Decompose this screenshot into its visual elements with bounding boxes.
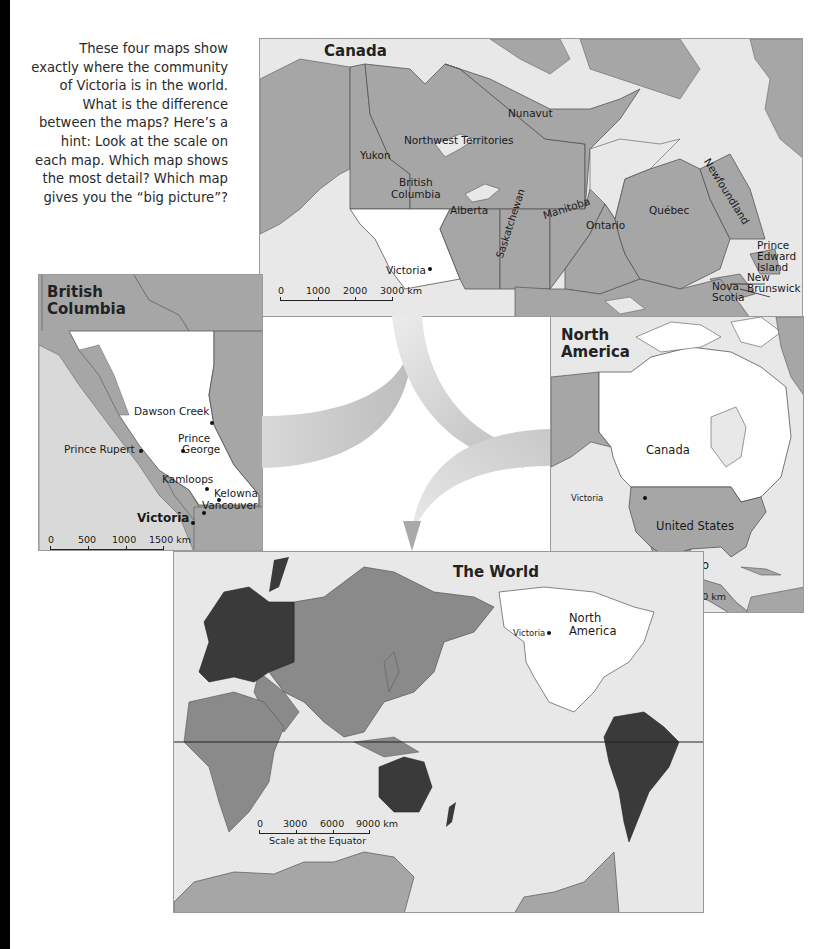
label-victoria: Victoria bbox=[513, 627, 545, 639]
british-columbia-map: British Columbia Dawson Creek Prince Geo… bbox=[38, 274, 263, 551]
canada-map-title: Canada bbox=[324, 43, 387, 60]
label-victoria: Victoria bbox=[571, 492, 603, 504]
city-kamloops: Kamloops bbox=[162, 473, 213, 485]
label-alberta: Alberta bbox=[450, 204, 488, 216]
bc-scale-bar: 0 500 1000 1500 km bbox=[48, 534, 198, 546]
intro-paragraph: These four maps show exactly where the c… bbox=[30, 40, 228, 207]
label-canada: Canada bbox=[646, 444, 690, 456]
city-prince-rupert: Prince Rupert bbox=[64, 443, 135, 455]
vancouver-marker bbox=[202, 511, 206, 515]
arrowhead-down bbox=[403, 521, 421, 551]
label-prince-edward-island: Prince Edward Island bbox=[757, 240, 796, 273]
canada-map: Canada Nunavut Northwest Territories Yuk… bbox=[259, 38, 803, 317]
bc-map-title: British Columbia bbox=[47, 284, 126, 318]
page-edge-strip bbox=[0, 0, 10, 949]
scale-caption: Scale at the Equator bbox=[269, 835, 366, 846]
label-yukon: Yukon bbox=[360, 149, 391, 161]
label-victoria: Victoria bbox=[386, 264, 426, 276]
canada-scale-bar: 0 1000 2000 3000 km bbox=[278, 285, 408, 297]
city-vancouver: Vancouver bbox=[202, 499, 257, 511]
label-ontario: Ontario bbox=[586, 219, 625, 231]
arrow-bc-to-canada bbox=[262, 346, 412, 468]
victoria-marker bbox=[643, 496, 647, 500]
dawson-creek-marker bbox=[210, 421, 214, 425]
label-new-brunswick: New Brunswick bbox=[747, 272, 801, 294]
label-nova-scotia: Nova Scotia bbox=[712, 281, 744, 303]
city-dawson-creek: Dawson Creek bbox=[134, 405, 209, 417]
victoria-marker bbox=[547, 631, 551, 635]
label-british-columbia: British Columbia bbox=[391, 176, 441, 200]
prince-rupert-marker bbox=[139, 449, 143, 453]
world-map: The World North America Victoria 0 3000 … bbox=[173, 551, 704, 913]
label-north-america: North America bbox=[569, 612, 616, 638]
victoria-marker bbox=[428, 267, 432, 271]
connecting-arrows bbox=[262, 316, 550, 551]
prince-george-marker bbox=[181, 449, 185, 453]
world-scale-bar: 0 3000 6000 9000 km Scale at the Equator bbox=[257, 818, 417, 830]
arrow-na-to-world bbox=[412, 429, 550, 531]
kamloops-marker bbox=[205, 487, 209, 491]
city-victoria: Victoria bbox=[137, 512, 189, 524]
victoria-marker bbox=[191, 521, 195, 525]
na-map-title: North America bbox=[561, 327, 630, 361]
label-northwest-territories: Northwest Territories bbox=[404, 134, 514, 146]
label-quebec: Québec bbox=[649, 204, 689, 216]
city-kelowna: Kelowna bbox=[214, 487, 258, 499]
label-united-states: United States bbox=[656, 520, 734, 532]
world-map-title: The World bbox=[453, 564, 539, 581]
world-map-graphic bbox=[174, 552, 704, 913]
label-nunavut: Nunavut bbox=[508, 107, 553, 119]
